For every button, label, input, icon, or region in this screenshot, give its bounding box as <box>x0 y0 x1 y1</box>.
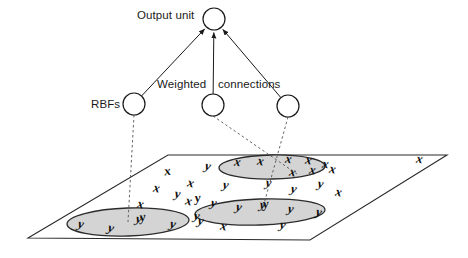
rbf-network-diagram: yyyyyyxxxyyxxyxxxxxxxxyyyyxyyyyyyyxyx <box>0 0 468 258</box>
figure-container: yyyyyyxxxyyxxyxxxxxxxxyyyyxyyyyyyyxyx Ou… <box>0 0 468 258</box>
weighted-label: Weighted <box>157 79 206 91</box>
rbfs-label: RBFs <box>91 99 120 111</box>
rbf-unit-2-node[interactable] <box>202 94 224 116</box>
rbf-unit-1-node[interactable] <box>123 93 145 115</box>
rbf-unit-3-node[interactable] <box>277 95 299 117</box>
output-unit-label: Output unit <box>137 10 194 22</box>
connection-2 <box>213 32 214 94</box>
output-unit-node[interactable] <box>203 8 225 30</box>
connections-label: connections <box>218 79 280 91</box>
rbf-unit-group <box>123 93 299 117</box>
